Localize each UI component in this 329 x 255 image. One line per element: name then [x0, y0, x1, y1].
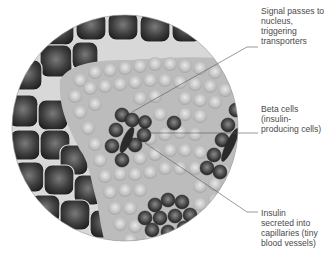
label-signal: Signal passes to nucleus, triggering tra… — [261, 6, 329, 46]
label-beta-cells: Beta cells (insulin- producing cells) — [261, 104, 321, 134]
label-insulin: Insulin secreted into capillaries (tiny … — [261, 208, 318, 248]
